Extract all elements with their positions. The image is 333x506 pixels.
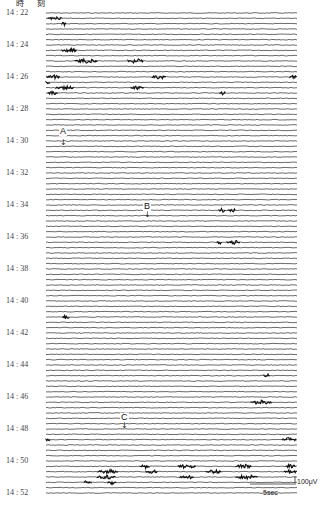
scale-bar xyxy=(0,0,333,506)
scale-amplitude-label: 100μV xyxy=(297,478,317,485)
scale-time-label: 5sec xyxy=(263,489,278,496)
